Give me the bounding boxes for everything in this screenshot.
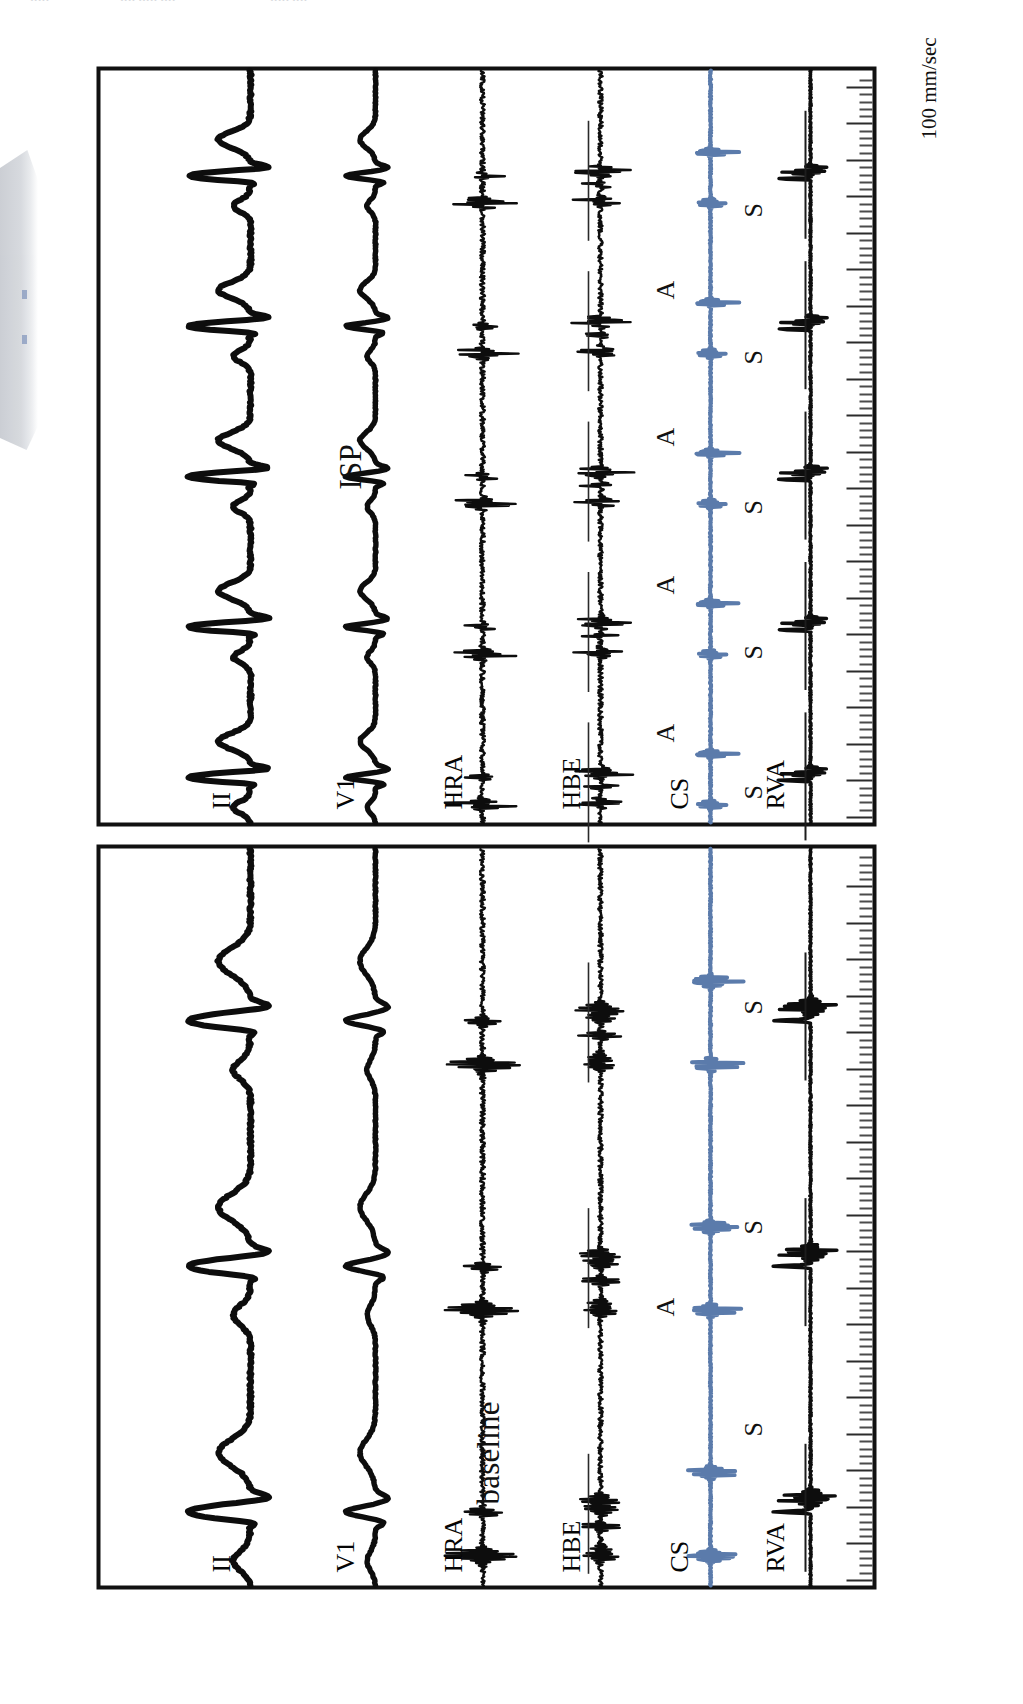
atrial-marker-a: A [650, 723, 680, 742]
panel-label-baseline: baseline [470, 1401, 506, 1504]
trace-rva [778, 70, 827, 822]
stimulus-marker-s: S [738, 645, 768, 659]
stimulus-marker-s: S [738, 785, 768, 799]
stimulus-marker-s: S [738, 500, 768, 514]
atrial-marker-a: A [650, 575, 680, 594]
channel-label-cs: CS [664, 1540, 694, 1572]
channel-label-hbe: HBE [556, 757, 586, 809]
trace-cs [688, 848, 744, 1585]
stimulus-marker-s: S [738, 350, 768, 364]
trace-cs [696, 70, 739, 822]
trace-ii [188, 849, 269, 1585]
trace-hra [444, 71, 518, 823]
paper-speed-label: 100 mm/sec [916, 37, 941, 139]
atrial-marker-a: A [650, 280, 680, 299]
panel-label-isp: ISP [332, 444, 368, 489]
stimulus-marker-s: S [738, 203, 768, 217]
rotated-figure-stage: baseline ISP II V1 HRA HBE CS RVA II V1 … [0, 0, 1023, 1704]
channel-label-hbe: HBE [556, 1520, 586, 1572]
channel-label-ii: II [206, 1555, 236, 1572]
stimulus-marker-s: S [738, 1220, 768, 1234]
stimulus-marker-s: S [738, 1000, 768, 1014]
trace-rva [773, 848, 837, 1585]
figure-canvas: baseline ISP II V1 HRA HBE CS RVA II V1 … [0, 0, 1023, 1704]
channel-label-hra: HRA [438, 754, 468, 809]
channel-label-cs: CS [664, 777, 694, 809]
trace-ii [187, 70, 269, 822]
trace-v1 [345, 849, 388, 1585]
channel-label-v1: V1 [330, 1540, 360, 1572]
trace-hbe [571, 71, 634, 823]
trace-hbe [575, 849, 623, 1585]
channel-label-hra: HRA [438, 1517, 468, 1572]
stimulus-marker-s: S [738, 1422, 768, 1436]
channel-label-v1: V1 [330, 777, 360, 809]
atrial-marker-a: A [650, 1297, 680, 1316]
atrial-marker-a: A [650, 427, 680, 446]
traces-isp [100, 62, 880, 822]
channel-label-rva: RVA [760, 1523, 790, 1572]
channel-label-ii: II [206, 792, 236, 809]
